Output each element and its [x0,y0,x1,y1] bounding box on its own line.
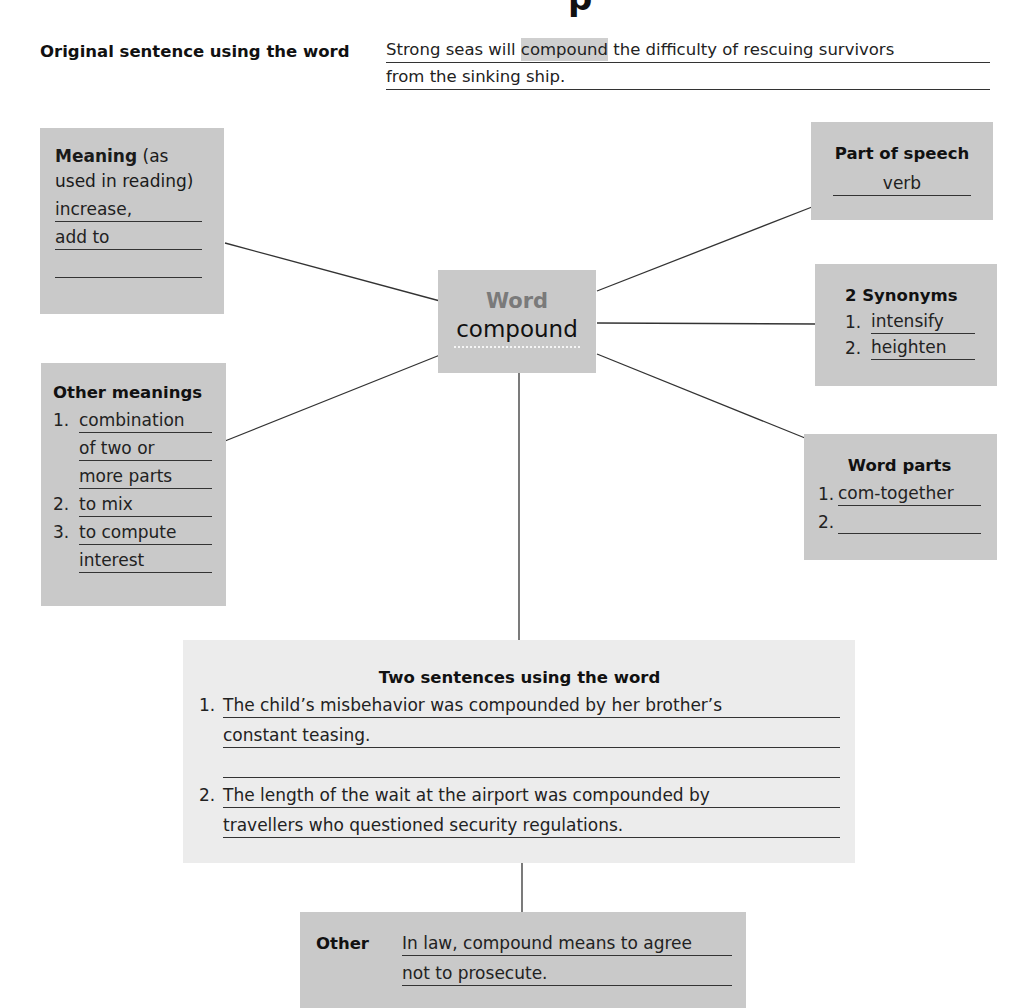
original-sentence-line-1: Strong seas will compound the difficulty… [386,38,990,63]
word-parts-box: Word parts 1. com-together 2. [804,434,997,560]
page-title-fragment: p [568,0,592,18]
word-part-item: 1. com-together [818,482,981,506]
list-number: 2. [818,511,838,534]
meaning-label-bold: Meaning [55,146,137,166]
line-to-word-parts [597,354,805,438]
other-meaning-line: more parts [79,465,212,489]
other-meanings-box: Other meanings 1. combination of two or … [41,363,226,606]
synonym-value: intensify [871,310,975,334]
meaning-answer-line: add to [55,226,202,250]
list-number: 2. [845,337,871,360]
other-meanings-list: 1. combination of two or more parts 2. t… [53,409,212,573]
word-part-value: com-together [838,482,981,506]
list-number: 1. [818,483,838,506]
part-of-speech-value: verb [833,172,971,196]
other-meaning-line: interest [79,549,212,573]
other-meaning-line: to mix [79,493,212,517]
line-to-other-meanings [225,355,440,441]
two-sentences-label: Two sentences using the word [199,666,840,690]
meaning-answer-line: increase, [55,198,202,222]
original-sentence-line-2: from the sinking ship. [386,65,990,90]
two-sentences-box: Two sentences using the word 1. The chil… [183,640,855,863]
meaning-box: Meaning (as used in reading) increase, a… [40,128,224,314]
part-of-speech-box: Part of speech verb [811,122,993,220]
other-line: In law, compound means to agree [402,932,732,956]
line-to-meaning [225,243,440,301]
sentence-line: The child’s misbehavior was compounded b… [223,694,840,718]
other-meaning-line: combination [79,409,212,433]
part-of-speech-label: Part of speech [833,142,971,166]
sentence-line: The length of the wait at the airport wa… [223,784,840,808]
center-word: compound [454,314,580,348]
other-meaning-line: to compute [79,521,212,545]
list-number: 3. [53,521,79,545]
list-number: 1. [845,311,871,334]
sentence-text: Strong seas will [386,40,521,59]
other-label: Other [316,932,402,956]
center-word-box: Word compound [438,270,596,373]
other-meanings-label: Other meanings [53,381,212,405]
other-box: Other In law, compound means to agree no… [300,912,746,1008]
synonyms-label: 2 Synonyms [845,284,975,308]
highlighted-word: compound [521,38,608,61]
synonym-item: 1. intensify [845,310,975,334]
other-line: not to prosecute. [402,962,732,986]
list-number: 2. [199,784,223,808]
meaning-label: Meaning (as used in reading) [55,144,202,194]
sentence-line: travellers who questioned security regul… [223,814,840,838]
meaning-answer-line [55,254,202,278]
synonym-item: 2. heighten [845,336,975,360]
line-to-synonyms [597,323,817,324]
sentence-text: the difficulty of rescuing survivors [608,40,894,59]
word-part-value [838,510,981,534]
center-word-label: Word [438,288,596,314]
other-meaning-line: of two or [79,437,212,461]
original-sentence-label: Original sentence using the word [40,42,350,61]
other-content: Other In law, compound means to agree no… [316,932,732,986]
synonym-value: heighten [871,336,975,360]
sentence-line: constant teasing. [223,724,840,748]
word-part-item: 2. [818,510,981,534]
list-number: 2. [53,493,79,517]
list-number: 1. [199,694,223,718]
list-number: 1. [53,409,79,433]
line-to-part-of-speech [597,207,812,291]
original-sentence: Strong seas will compound the difficulty… [386,38,990,90]
sentence-line [223,754,840,778]
two-sentences-list: 1. The child’s misbehavior was compounde… [199,694,840,838]
synonyms-box: 2 Synonyms 1. intensify 2. heighten [815,264,997,386]
word-parts-label: Word parts [818,454,981,478]
